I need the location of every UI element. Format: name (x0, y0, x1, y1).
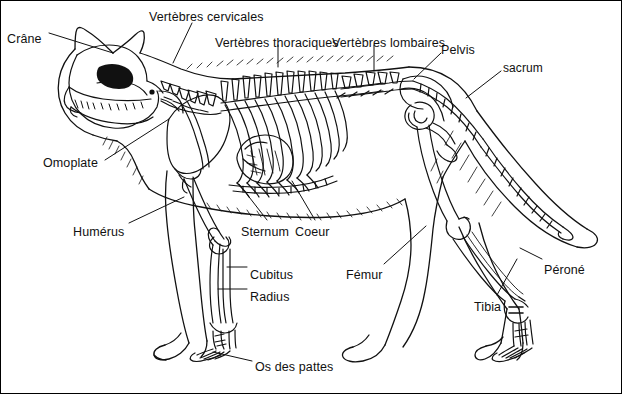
label-sternum: Sternum (241, 226, 289, 239)
label-vertebres-lombaires: Vertèbres lombaires (332, 37, 445, 50)
label-tibia: Tibia (474, 301, 501, 314)
label-sacrum: sacrum (503, 62, 543, 74)
label-vertebres-cervicales: Vertèbres cervicales (149, 11, 264, 24)
sacrum-caudal-vertebrae (413, 81, 573, 240)
thoracic-vertebrae (221, 71, 383, 111)
label-cubitus: Cubitus (250, 269, 293, 282)
femur-bone (408, 113, 470, 239)
label-coeur: Coeur (295, 226, 330, 239)
skull-bone (64, 45, 163, 128)
lumbar-vertebrae (337, 72, 413, 98)
label-humerus: Humérus (73, 226, 124, 239)
cervical-vertebrae (159, 81, 221, 115)
label-vertebres-thoraciques: Vertèbres thoraciques (215, 37, 339, 50)
heart-shape (237, 135, 293, 184)
front-leg-outline (154, 171, 207, 360)
label-crane: Crâne (7, 33, 42, 46)
humerus-bone (182, 177, 230, 254)
label-radius: Radius (250, 291, 290, 304)
front-paw-bones (190, 330, 236, 362)
skeleton-diagram: Crâne Vertèbres cervicales Vertèbres tho… (0, 0, 622, 394)
fur-texture (103, 56, 501, 220)
label-perone: Péroné (544, 264, 585, 277)
label-omoplate: Omoplate (43, 157, 98, 170)
body-outline (58, 28, 597, 362)
label-pelvis: Pelvis (441, 44, 475, 57)
label-os-des-pattes: Os des pattes (255, 361, 333, 374)
scapula-bone (167, 95, 230, 187)
radius-ulna-bone (208, 228, 237, 333)
label-femur: Fémur (346, 269, 383, 282)
skeleton-illustration (1, 1, 622, 394)
